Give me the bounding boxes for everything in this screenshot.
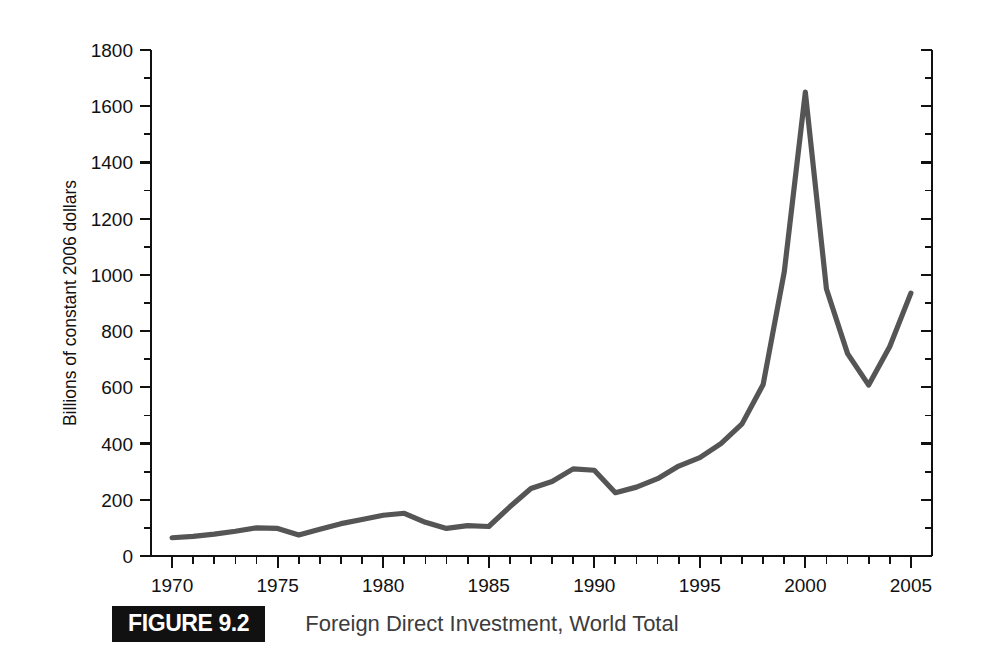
x-tick-label: 1995 (679, 575, 721, 595)
y-tick-label: 1600 (91, 96, 133, 117)
y-tick-label: 1800 (91, 40, 133, 61)
x-tick-label: 1990 (573, 575, 615, 595)
x-tick-label: 1980 (362, 575, 404, 595)
data-series-line (172, 92, 911, 538)
figure-caption-text: Foreign Direct Investment, World Total (305, 611, 678, 637)
y-tick-label: 400 (101, 434, 133, 455)
chart-plot-area: 0200400600800100012001400160018001970197… (0, 0, 998, 595)
y-tick-label: 600 (101, 377, 133, 398)
y-tick-label: 200 (101, 490, 133, 511)
y-axis-title: Billions of constant 2006 dollars (60, 180, 80, 426)
x-tick-label: 1975 (257, 575, 299, 595)
y-tick-label: 1000 (91, 265, 133, 286)
x-tick-label: 1970 (151, 575, 193, 595)
figure-caption-bar: FIGURE 9.2 Foreign Direct Investment, Wo… (0, 595, 998, 652)
x-tick-label: 2000 (784, 575, 826, 595)
y-tick-label: 1400 (91, 152, 133, 173)
x-tick-label: 1985 (468, 575, 510, 595)
figure-number-badge: FIGURE 9.2 (112, 606, 265, 642)
y-tick-label: 0 (122, 546, 133, 567)
y-tick-label: 1200 (91, 209, 133, 230)
line-chart: 0200400600800100012001400160018001970197… (0, 0, 998, 595)
figure-container: 0200400600800100012001400160018001970197… (0, 0, 998, 652)
x-tick-label: 2005 (890, 575, 932, 595)
y-tick-label: 800 (101, 321, 133, 342)
